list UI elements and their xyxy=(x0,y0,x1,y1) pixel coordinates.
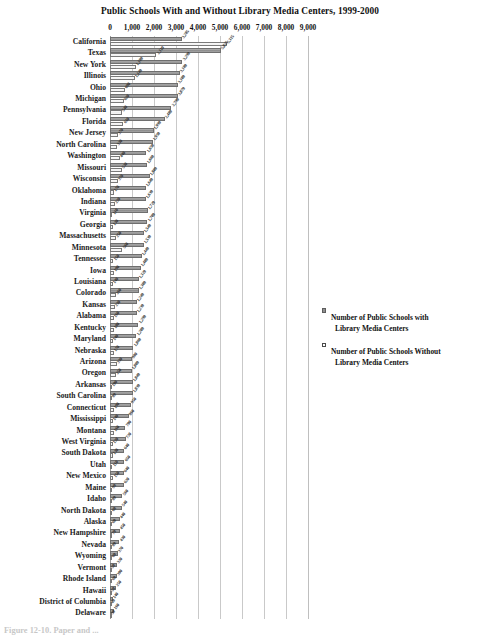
category-label: South Carolina xyxy=(0,390,106,401)
data-label-without: 110 xyxy=(112,460,119,467)
category-label: Mississippi xyxy=(0,413,106,424)
legend-label: Number of Public Schools WithoutLibrary … xyxy=(331,347,474,367)
bar-row: Michigan3,070620 xyxy=(110,93,308,104)
bar-row: Wisconsin1,800370 xyxy=(110,173,308,184)
category-label: New Mexico xyxy=(0,470,106,481)
data-label-with: 560 xyxy=(122,489,129,497)
category-label: Alabama xyxy=(0,310,106,321)
data-label-with: 950 xyxy=(130,397,137,405)
chart-root: Public Schools With and Without Library … xyxy=(0,0,480,639)
category-label: Hawaii xyxy=(0,585,106,596)
bar-without-library xyxy=(110,202,115,206)
legend-label-line2: Library Media Centers xyxy=(331,324,474,333)
bar-without-library xyxy=(110,316,114,320)
bar-without-library xyxy=(110,488,112,492)
bar-row: District of Columbia14040 xyxy=(110,596,308,607)
category-label: South Dakota xyxy=(0,448,106,459)
data-label-without: 110 xyxy=(112,208,119,215)
data-label-without: 560 xyxy=(122,242,129,250)
category-label: Missouri xyxy=(0,162,106,173)
category-label: Georgia xyxy=(0,219,106,230)
data-label-without: 150 xyxy=(113,254,120,262)
legend-swatch-icon xyxy=(322,308,326,312)
bar-row: Vermont32050 xyxy=(110,562,308,573)
bar-without-library xyxy=(110,225,113,229)
bar-without-library xyxy=(110,65,136,69)
chart-title: Public Schools With and Without Library … xyxy=(0,6,480,16)
bar-row: Connecticut950190 xyxy=(110,402,308,413)
category-label: Maine xyxy=(0,482,106,493)
category-label: Nebraska xyxy=(0,345,106,356)
category-label: Arizona xyxy=(0,356,106,367)
category-label: Washington xyxy=(0,150,106,161)
x-axis-tick-labels: 01,0002,0003,0004,0005,0006,0007,0008,00… xyxy=(92,23,332,35)
bar-row: Florida2,480610 xyxy=(110,116,308,127)
category-label: Nevada xyxy=(0,539,106,550)
x-tick-1000: 1,000 xyxy=(124,23,141,32)
bar-row: Georgia1,700130 xyxy=(110,219,308,230)
category-label: Rhode Island xyxy=(0,573,106,584)
category-label: Colorado xyxy=(0,287,106,298)
data-label-with: 640 xyxy=(124,443,131,451)
data-label-with: 250 xyxy=(115,580,122,588)
category-label: Wisconsin xyxy=(0,173,106,184)
legend-label: Number of Public Schools withLibrary Med… xyxy=(331,313,474,333)
bar-without-library xyxy=(110,168,122,172)
bar-without-library xyxy=(110,190,114,194)
category-label: New Hampshire xyxy=(0,528,106,539)
gridline-9000 xyxy=(308,36,309,619)
bar-without-library xyxy=(110,373,116,377)
bar-row: Oklahoma1,640170 xyxy=(110,185,308,196)
data-label-with: 370 xyxy=(118,546,125,554)
bar-row: Massachusetts1,540250 xyxy=(110,230,308,241)
category-label: Michigan xyxy=(0,93,106,104)
bar-with-library xyxy=(110,151,146,155)
bar-without-library xyxy=(110,110,122,114)
bar-without-library xyxy=(110,259,113,263)
category-label: Alaska xyxy=(0,516,106,527)
bar-without-library xyxy=(110,99,124,103)
data-label-without: 170 xyxy=(113,185,120,193)
category-label: Vermont xyxy=(0,562,106,573)
bar-without-library xyxy=(110,213,112,217)
data-label-without: 160 xyxy=(113,425,120,433)
bar-without-library xyxy=(110,362,117,366)
bar-row: Wyoming37060 xyxy=(110,550,308,561)
x-tick-4000: 4,000 xyxy=(190,23,207,32)
data-label-without: 260 xyxy=(115,288,122,296)
category-label: Kentucky xyxy=(0,322,106,333)
category-label: Ohio xyxy=(0,82,106,93)
data-label-without: 2,110 xyxy=(156,46,165,56)
category-label: Florida xyxy=(0,116,106,127)
bar-row: New Jersey1,990370 xyxy=(110,127,308,138)
bar-row: Washington1,650440 xyxy=(110,150,308,161)
data-label-without: 620 xyxy=(123,94,130,102)
bar-row: South Carolina1,03080 xyxy=(110,390,308,401)
category-label: Arkansas xyxy=(0,379,106,390)
x-tick-2000: 2,000 xyxy=(146,23,163,32)
bar-without-library xyxy=(110,179,118,183)
category-label: Oklahoma xyxy=(0,185,106,196)
data-label-with: 980 xyxy=(131,352,138,360)
data-label-with: 300 xyxy=(116,569,123,577)
category-label: Illinois xyxy=(0,70,106,81)
bar-with-library xyxy=(110,37,182,41)
bar-row: West Virginia720120 xyxy=(110,436,308,447)
bar-without-library xyxy=(110,271,114,275)
data-label-with: 440 xyxy=(119,512,126,520)
bar-row: Minnesota1,530560 xyxy=(110,242,308,253)
bar-row: North Dakota54060 xyxy=(110,505,308,516)
bar-row: Hawaii25050 xyxy=(110,585,308,596)
category-label: Montana xyxy=(0,425,106,436)
category-label: West Virginia xyxy=(0,436,106,447)
data-label-with: 700 xyxy=(125,420,132,428)
bar-row: Virginia1,720110 xyxy=(110,207,308,218)
category-label: Oregon xyxy=(0,368,106,379)
bar-without-library xyxy=(110,476,113,480)
category-label: Kansas xyxy=(0,299,106,310)
legend-item-without: Number of Public Schools WithoutLibrary … xyxy=(322,340,474,367)
data-label-with: 620 xyxy=(123,477,130,485)
bar-row: New Hampshire45070 xyxy=(110,528,308,539)
bar-row: Missouri1,660530 xyxy=(110,162,308,173)
x-tick-7000: 7,000 xyxy=(256,23,273,32)
